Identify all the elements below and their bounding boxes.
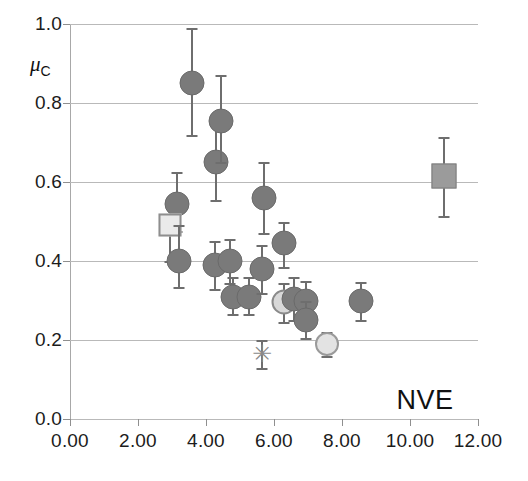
corner-label: NVE (396, 385, 453, 416)
error-bar-cap-bottom (209, 289, 220, 291)
error-bar-cap-bottom (355, 320, 366, 322)
x-tick-label: 12.00 (454, 430, 503, 452)
x-tick-mark (342, 419, 343, 426)
marker-circle-dark (180, 71, 205, 96)
error-bar-cap-top (289, 277, 300, 279)
error-bar-cap-top (224, 239, 235, 241)
x-tick-mark (70, 419, 71, 426)
y-tick-mark (63, 261, 70, 262)
marker-circle-dark (209, 108, 234, 133)
marker-circle-dark (250, 256, 275, 281)
x-tick-label: 10.00 (386, 430, 435, 452)
x-tick-label: 4.00 (187, 430, 225, 452)
error-bar-cap-top (279, 222, 290, 224)
error-bar-cap-bottom (301, 338, 312, 340)
marker-circle-dark (236, 284, 261, 309)
y-tick-label: 0.0 (14, 408, 62, 430)
error-bar-cap-top (301, 281, 312, 283)
x-tick-mark (138, 419, 139, 426)
error-bar-cap-top (172, 172, 183, 174)
x-tick-label: 8.00 (323, 430, 361, 452)
error-bar-cap-bottom (279, 322, 290, 324)
x-tick-label: 2.00 (119, 430, 157, 452)
marker-circle-dark (294, 308, 319, 333)
error-bar-cap-bottom (173, 287, 184, 289)
error-bar-cap-bottom (258, 233, 269, 235)
y-tick-label: 0.6 (14, 171, 62, 193)
error-bar-cap-bottom (216, 162, 227, 164)
x-tick-mark (274, 419, 275, 426)
y-axis-label: μC (30, 52, 51, 79)
error-bar-cap-bottom (228, 314, 239, 316)
y-tick-mark (63, 103, 70, 104)
x-tick-mark (206, 419, 207, 426)
marker-circle-dark (272, 231, 297, 256)
x-tick-label: 6.00 (255, 430, 293, 452)
marker-star: ✳ (251, 343, 273, 365)
y-tick-mark (63, 419, 70, 420)
error-bar-cap-bottom (243, 314, 254, 316)
error-bar-cap-bottom (257, 293, 268, 295)
y-tick-label: 0.2 (14, 329, 62, 351)
x-tick-mark (410, 419, 411, 426)
marker-circle-dark (165, 191, 190, 216)
error-bar-cap-bottom (257, 368, 268, 370)
scatter-chart: μC 0.00.20.40.60.81.0 0.002.004.006.008.… (0, 0, 528, 481)
error-bar-cap-top (355, 282, 366, 284)
x-tick-label: 0.00 (51, 430, 89, 452)
y-tick-mark (63, 182, 70, 183)
y-axis-label-subscript: C (41, 63, 51, 79)
error-bar-cap-bottom (321, 356, 332, 358)
y-tick-label: 1.0 (14, 13, 62, 35)
marker-circle-dark (217, 249, 242, 274)
error-bar-cap-top (228, 277, 239, 279)
marker-circle-dark (251, 185, 276, 210)
marker-circle-dark (166, 249, 191, 274)
error-bar-cap-bottom (439, 216, 450, 218)
y-tick-label: 0.8 (14, 92, 62, 114)
x-tick-mark (478, 419, 479, 426)
plot-area: ✳ (70, 24, 478, 419)
marker-circle-light (315, 332, 339, 356)
error-bar-cap-top (439, 137, 450, 139)
marker-square-dark (432, 164, 457, 189)
y-tick-mark (63, 24, 70, 25)
error-bar-cap-top (216, 75, 227, 77)
error-bar-cap-bottom (211, 200, 222, 202)
y-tick-label: 0.4 (14, 250, 62, 272)
marker-circle-dark (348, 289, 373, 314)
error-bar-cap-top (209, 241, 220, 243)
y-axis-label-symbol: μ (30, 52, 41, 76)
error-bar-cap-top (257, 245, 268, 247)
error-bar-cap-bottom (279, 267, 290, 269)
error-bar-cap-top (173, 225, 184, 227)
error-bar-cap-top (301, 301, 312, 303)
error-bar-cap-bottom (187, 135, 198, 137)
corner-artifact (0, 0, 10, 5)
error-bar-cap-top (258, 162, 269, 164)
error-bar-cap-top (187, 28, 198, 30)
y-tick-mark (63, 340, 70, 341)
error-bar-cap-top (279, 283, 290, 285)
